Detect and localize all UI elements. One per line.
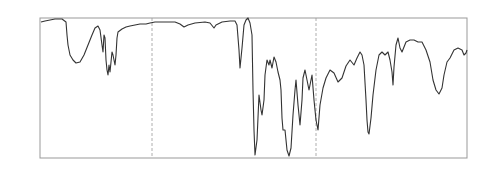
spectrum-line (41, 18, 467, 156)
ir-spectrum-chart (0, 0, 487, 191)
